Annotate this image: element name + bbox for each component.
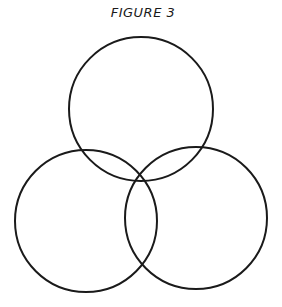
circle-bottom-left <box>15 150 157 292</box>
venn-diagram <box>0 0 282 307</box>
circle-bottom-right <box>125 147 267 289</box>
circle-top <box>69 37 213 181</box>
